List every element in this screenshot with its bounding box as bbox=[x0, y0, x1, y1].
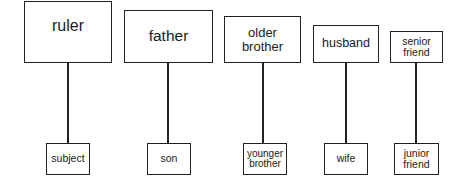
inferior-box-wife: wife bbox=[324, 143, 368, 175]
inferior-box-younger-brother: younger brother bbox=[243, 143, 287, 175]
connector-line bbox=[345, 62, 347, 144]
inferior-label: younger brother bbox=[247, 149, 283, 170]
connector-line bbox=[67, 62, 69, 144]
superior-label: ruler bbox=[52, 18, 84, 35]
connector-line bbox=[167, 62, 169, 144]
inferior-box-junior-friend: junior friend bbox=[394, 143, 439, 175]
connector-line bbox=[415, 62, 417, 144]
superior-box-husband: husband bbox=[313, 25, 379, 63]
superior-box-ruler: ruler bbox=[24, 1, 112, 63]
inferior-label: son bbox=[161, 153, 178, 164]
inferior-label: wife bbox=[337, 153, 356, 164]
superior-label: older brother bbox=[242, 26, 283, 53]
superior-box-older-brother: older brother bbox=[224, 16, 301, 63]
superior-box-father: father bbox=[124, 10, 213, 63]
inferior-box-son: son bbox=[147, 143, 191, 175]
superior-box-senior-friend: senior friend bbox=[390, 31, 443, 63]
inferior-label: subject bbox=[51, 153, 84, 164]
superior-label: husband bbox=[322, 37, 370, 50]
superior-label: senior friend bbox=[402, 36, 431, 58]
superior-label: father bbox=[149, 28, 189, 44]
connector-line bbox=[262, 62, 264, 144]
inferior-box-subject: subject bbox=[46, 143, 90, 175]
inferior-label: junior friend bbox=[403, 148, 429, 170]
